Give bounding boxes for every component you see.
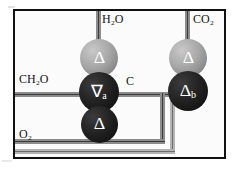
triangle-icon: Δ — [182, 49, 193, 66]
label-o2-text: O₂ — [19, 127, 32, 141]
nabla-icon: ∇ — [91, 83, 103, 100]
node-middle-left-subscript: a — [102, 90, 106, 101]
label-h2o-text: H₂O — [102, 12, 124, 26]
scan-artifact-bottom-left — [2, 160, 12, 162]
pipe-o2-loop-bottom — [15, 149, 175, 154]
node-bottom-right[interactable]: Δb — [168, 71, 208, 111]
node-top-left-glyph: Δ — [94, 49, 105, 66]
node-middle-left-glyph: ∇a — [91, 83, 106, 100]
diagram-plate: H₂O CO₂ CH₂O C O₂ Δ ∇a Δ — [13, 9, 226, 159]
label-c-text: C — [126, 74, 134, 88]
node-top-right-glyph: Δ — [183, 49, 194, 66]
scan-artifact-top-left — [8, 6, 15, 8]
label-ch2o-text: CH₂O — [19, 72, 49, 86]
label-h2o: H₂O — [102, 13, 124, 25]
node-bottom-left[interactable]: Δ — [81, 106, 118, 143]
triangle-icon: Δ — [93, 49, 104, 66]
label-c: C — [126, 75, 134, 87]
figure-canvas: H₂O CO₂ CH₂O C O₂ Δ ∇a Δ — [0, 0, 241, 171]
label-o2: O₂ — [19, 128, 32, 140]
label-co2: CO₂ — [193, 13, 214, 25]
label-ch2o: CH₂O — [19, 73, 49, 85]
node-bottom-right-subscript: b — [191, 89, 196, 100]
triangle-icon: Δ — [180, 82, 191, 99]
triangle-icon: Δ — [94, 115, 105, 132]
node-bottom-left-glyph: Δ — [94, 115, 105, 132]
pipe-return-loop-right-riser — [160, 93, 165, 143]
node-bottom-right-glyph: Δb — [180, 82, 196, 99]
label-co2-text: CO₂ — [193, 12, 214, 26]
